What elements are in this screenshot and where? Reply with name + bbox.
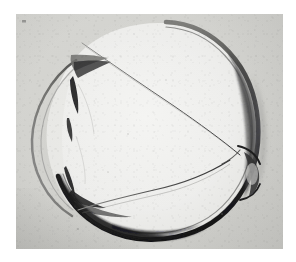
print-speck [22, 20, 26, 23]
page-root: Grayscale histological cross-section of … [0, 0, 296, 262]
photograph [16, 14, 283, 249]
eye-cross-section-figure [16, 14, 283, 249]
